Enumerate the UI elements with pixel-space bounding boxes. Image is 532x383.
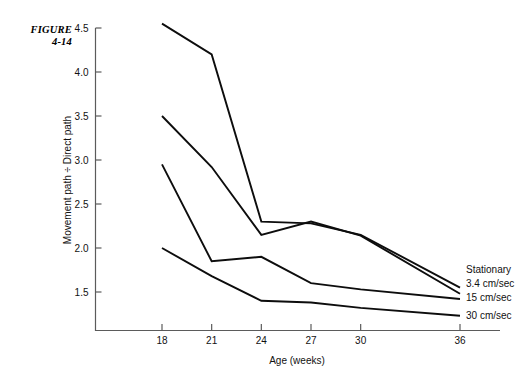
x-axis-tick-label: 21 — [206, 335, 218, 346]
x-axis-tick-label: 24 — [256, 335, 268, 346]
data-series-line-2 — [162, 164, 460, 299]
data-series-line-3 — [162, 248, 460, 316]
legend-label-1: 3.4 cm/sec — [466, 278, 514, 289]
y-axis-title: Movement path ÷ Direct path — [62, 116, 73, 244]
y-axis-tick-label: 3.5 — [75, 111, 89, 122]
x-axis-title: Age (weeks) — [269, 355, 325, 366]
line-chart: 4.54.03.53.02.52.01.5 Movement path ÷ Di… — [0, 0, 532, 383]
legend-label-3: 30 cm/sec — [466, 310, 512, 321]
x-axis: 182124273036 Age (weeks) — [96, 324, 501, 366]
x-axis-tick-label: 27 — [305, 335, 317, 346]
y-axis-tick-label: 4.5 — [75, 23, 89, 34]
x-axis-tick-label: 30 — [355, 335, 367, 346]
x-axis-tick-label: 18 — [156, 335, 168, 346]
y-axis-tick-label: 4.0 — [75, 67, 89, 78]
x-axis-ticks — [162, 324, 460, 331]
y-axis-ticks — [96, 28, 102, 292]
legend-label-0: Stationary — [466, 264, 511, 275]
x-axis-tick-label: 36 — [454, 335, 466, 346]
data-series-line-1 — [162, 116, 460, 294]
y-axis-tick-label: 2.5 — [75, 199, 89, 210]
chart-svg: 4.54.03.53.02.52.01.5 Movement path ÷ Di… — [0, 0, 532, 383]
y-axis-tick-label: 2.0 — [75, 243, 89, 254]
x-axis-tick-labels: 182124273036 — [156, 335, 466, 346]
legend-label-2: 15 cm/sec — [466, 292, 512, 303]
y-axis: 4.54.03.53.02.52.01.5 Movement path ÷ Di… — [62, 23, 102, 331]
y-axis-tick-label: 1.5 — [75, 287, 89, 298]
y-axis-tick-label: 3.0 — [75, 155, 89, 166]
data-series-lines — [162, 24, 460, 316]
data-series-line-0 — [162, 24, 460, 288]
chart-legend: Stationary3.4 cm/sec15 cm/sec30 cm/sec — [466, 264, 514, 321]
y-axis-tick-labels: 4.54.03.53.02.52.01.5 — [75, 23, 89, 298]
